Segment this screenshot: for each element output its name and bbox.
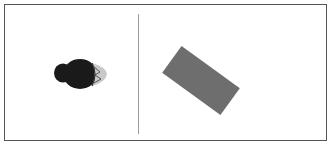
panel-divider [138, 14, 139, 134]
dark-figure-image [52, 58, 110, 90]
figure-icon [52, 58, 110, 90]
